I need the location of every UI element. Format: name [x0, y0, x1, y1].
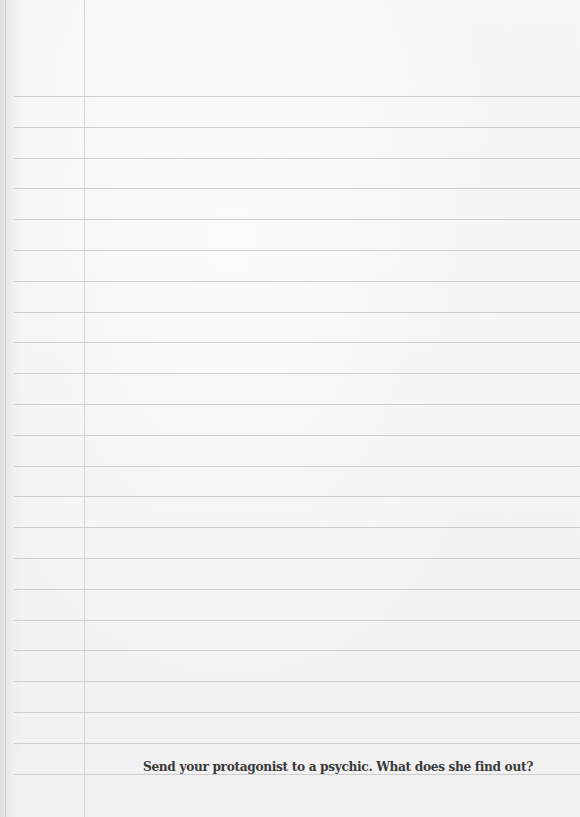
rule-line: [14, 404, 580, 405]
rule-line: [14, 681, 580, 682]
rule-line: [14, 250, 580, 251]
rule-line: [14, 712, 580, 713]
writing-prompt: Send your protagonist to a psychic. What…: [143, 760, 533, 774]
rule-line: [14, 312, 580, 313]
rule-line: [14, 496, 580, 497]
rule-line: [14, 96, 580, 97]
rule-line: [14, 342, 580, 343]
rule-line: [14, 743, 580, 744]
rule-line: [14, 620, 580, 621]
rule-line: [14, 158, 580, 159]
rule-line: [14, 589, 580, 590]
notebook-page: Send your protagonist to a psychic. What…: [0, 0, 580, 817]
rule-line: [14, 650, 580, 651]
rule-line: [14, 527, 580, 528]
rule-line: [14, 127, 580, 128]
rule-line: [14, 774, 580, 775]
rule-line: [14, 466, 580, 467]
rule-line: [14, 219, 580, 220]
rule-line: [14, 558, 580, 559]
ruled-lines: [0, 0, 580, 817]
rule-line: [14, 188, 580, 189]
rule-line: [14, 435, 580, 436]
rule-line: [14, 281, 580, 282]
margin-line: [84, 0, 85, 817]
rule-line: [14, 373, 580, 374]
